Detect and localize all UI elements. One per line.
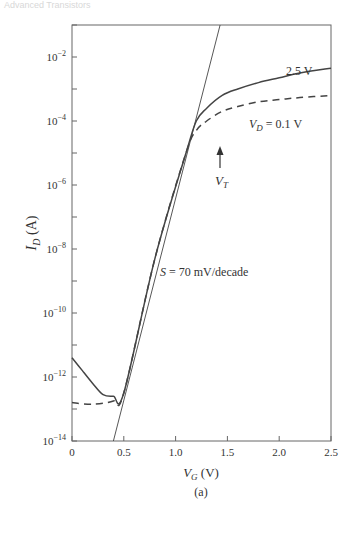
y-axis-label: ID (A) bbox=[24, 215, 42, 251]
label-vt: VT bbox=[215, 173, 229, 190]
y-tick-label: 10−6 bbox=[46, 177, 66, 191]
curve-v-d-0-1-v bbox=[72, 95, 331, 405]
vt-arrow bbox=[217, 146, 224, 168]
figure-caption: (a) bbox=[194, 485, 207, 499]
y-tick-label: 10−4 bbox=[46, 113, 66, 127]
y-tick-label: 10−14 bbox=[42, 433, 66, 447]
plot-frame bbox=[72, 25, 331, 441]
x-tick-label: 2.0 bbox=[272, 446, 286, 458]
y-tick-label: 10−8 bbox=[46, 241, 66, 255]
curves bbox=[72, 25, 331, 441]
label-vd-0-1v: VD = 0.1 V bbox=[249, 117, 302, 133]
x-axis-label: VG (V) bbox=[183, 465, 219, 482]
x-tick-label: 1.5 bbox=[221, 446, 235, 458]
label-vd-2-5v: 2.5 V bbox=[286, 64, 313, 78]
x-tick-label: 1.0 bbox=[169, 446, 183, 458]
curve-subthreshold-slope-tangent bbox=[113, 25, 220, 441]
y-tick-label: 10−12 bbox=[42, 369, 66, 383]
x-tick-label: 2.5 bbox=[324, 446, 338, 458]
y-tick-label: 10−2 bbox=[46, 49, 66, 63]
x-tick-label: 0 bbox=[69, 446, 75, 458]
x-axis-ticks: 00.51.01.52.02.5 bbox=[69, 436, 338, 458]
slope-annotation: S = 70 mV/decade bbox=[160, 265, 248, 279]
chart-plot: 10−1410−1210−1010−810−610−410−2 00.51.01… bbox=[0, 0, 363, 541]
y-tick-label: 10−10 bbox=[42, 305, 66, 319]
x-tick-label: 0.5 bbox=[117, 446, 131, 458]
